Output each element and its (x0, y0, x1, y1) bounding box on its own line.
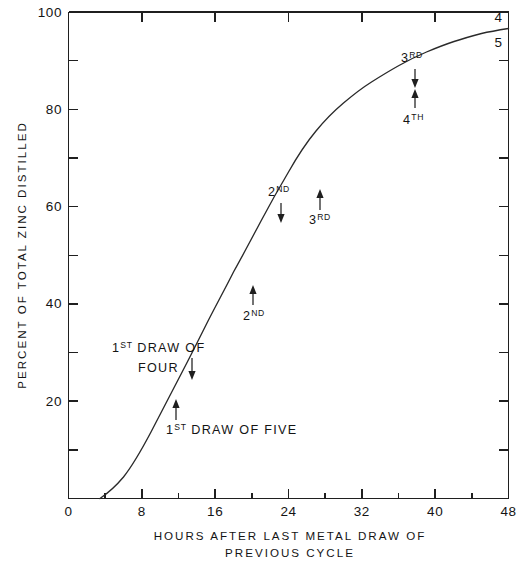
annotation-ordinal-suffix: ST (174, 422, 186, 432)
annotation-fourth-draw-of-five: 4TH (403, 89, 424, 127)
end-label-four: 4 (494, 10, 502, 25)
y-tick-label-80: 80 (46, 102, 62, 117)
annotation-third-draw-of-four-label: 3RD (401, 50, 423, 65)
annotation-third-draw-of-five-label: 3RD (309, 212, 331, 227)
annotation-ordinal-suffix: ND (251, 308, 265, 318)
annotation-ordinal-number: 4 (403, 113, 411, 127)
x-tick-label-32: 32 (354, 504, 370, 519)
x-tick-labels: 0 8 16 24 32 40 48 (64, 504, 516, 519)
annotation-ordinal-number: 2 (268, 185, 276, 199)
arrow-up-second-draw-of-five (249, 285, 256, 305)
x-tick-label-48: 48 (500, 504, 516, 519)
annotation-ordinal-number: 3 (309, 213, 317, 227)
annotation-third-draw-of-five: 3RD (309, 189, 331, 227)
y-axis-ticks-right (499, 61, 509, 450)
annotation-ordinal-number: 1 (112, 341, 120, 355)
arrow-down-second-draw-of-four (277, 203, 284, 223)
annotation-ordinal-number: 3 (401, 51, 409, 65)
x-axis-title-line2: PREVIOUS CYCLE (225, 546, 355, 559)
annotation-ordinal-number: 1 (166, 423, 174, 437)
annotation-first-draw-of-four-line2: FOUR (138, 361, 179, 375)
annotation-first-draw-of-four-line1: 1ST DRAW OF (112, 340, 205, 355)
arrow-down-first-draw-of-four (188, 358, 195, 380)
annotation-fourth-draw-of-five-label: 4TH (403, 112, 424, 127)
annotation-ordinal-number: 2 (243, 309, 251, 323)
annotation-second-draw-of-five-label: 2ND (243, 308, 265, 323)
y-tick-labels: 100 80 60 40 20 (38, 5, 62, 409)
annotation-second-draw-of-five: 2ND (243, 285, 265, 323)
annotation-ordinal-suffix: ST (120, 340, 132, 350)
end-label-five: 5 (494, 35, 502, 50)
zinc-distillation-figure: 100 80 60 40 20 0 8 16 24 32 40 48 1ST D… (0, 0, 528, 566)
arrow-up-third-draw-of-five (316, 189, 323, 210)
distillation-curve (100, 29, 509, 499)
x-tick-label-16: 16 (207, 504, 223, 519)
x-axis-ticks (69, 489, 509, 499)
annotation-first-draw-of-four: 1ST DRAW OF FOUR (112, 340, 205, 380)
annotation-second-draw-of-four: 2ND (268, 184, 290, 223)
annotation-first-draw-of-five: 1ST DRAW OF FIVE (166, 399, 297, 437)
x-tick-label-8: 8 (138, 504, 146, 519)
annotation-rest-text: DRAW OF (133, 341, 206, 355)
arrow-down-third-draw-of-four (411, 69, 418, 88)
y-axis-title: PERCENT OF TOTAL ZINC DISTILLED (15, 121, 28, 389)
annotation-ordinal-suffix: RD (317, 212, 331, 222)
x-tick-label-40: 40 (427, 504, 443, 519)
annotation-ordinal-suffix: ND (276, 184, 290, 194)
annotation-first-draw-of-five-line1: 1ST DRAW OF FIVE (166, 422, 297, 437)
chart-canvas: 100 80 60 40 20 0 8 16 24 32 40 48 1ST D… (0, 0, 528, 566)
arrow-up-first-draw-of-five (172, 399, 179, 420)
y-axis-ticks (69, 12, 79, 450)
y-tick-label-20: 20 (46, 394, 62, 409)
arrow-up-fourth-draw-of-five (411, 89, 418, 108)
annotation-ordinal-suffix: TH (411, 112, 424, 122)
y-tick-label-100: 100 (38, 5, 62, 20)
y-tick-label-40: 40 (46, 296, 62, 311)
x-tick-label-24: 24 (280, 504, 296, 519)
annotation-third-draw-of-four: 3RD (401, 50, 423, 88)
x-axis-title-line1: HOURS AFTER LAST METAL DRAW OF (154, 529, 427, 542)
x-axis-ticks-top (142, 12, 435, 22)
annotation-rest-text: DRAW OF FIVE (187, 423, 298, 437)
y-tick-label-60: 60 (46, 199, 62, 214)
x-tick-label-0: 0 (64, 504, 72, 519)
annotation-second-draw-of-four-label: 2ND (268, 184, 290, 199)
annotation-ordinal-suffix: RD (409, 50, 423, 60)
